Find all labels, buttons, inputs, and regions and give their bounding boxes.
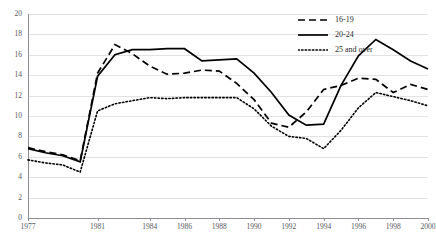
y-tick-label: 18 bbox=[15, 31, 23, 39]
x-tick-label: 1981 bbox=[90, 223, 105, 231]
legend-item-25-and-over[interactable]: 25 and over bbox=[298, 42, 373, 57]
x-tick-label: 1992 bbox=[281, 223, 296, 231]
y-tick-label: 6 bbox=[18, 153, 22, 161]
x-tick bbox=[98, 218, 99, 221]
legend-item-20-24[interactable]: 20-24 bbox=[298, 27, 373, 42]
legend-swatch-solid bbox=[298, 30, 328, 40]
y-tick-label: 16 bbox=[15, 51, 23, 59]
x-axis-labels: 1977198119841986198819901992199419961998… bbox=[28, 218, 428, 242]
legend-label: 25 and over bbox=[335, 46, 373, 54]
x-tick-label: 1986 bbox=[177, 223, 192, 231]
legend-swatch-dotted bbox=[298, 45, 328, 55]
y-axis-labels: 02468101214161820 bbox=[0, 14, 24, 218]
legend-swatch-dashed bbox=[298, 15, 328, 25]
x-tick-label: 1988 bbox=[212, 223, 227, 231]
y-tick-label: 0 bbox=[18, 214, 22, 222]
x-tick-label: 1994 bbox=[316, 223, 331, 231]
x-tick-label: 1998 bbox=[386, 223, 401, 231]
x-tick bbox=[358, 218, 359, 221]
x-tick bbox=[219, 218, 220, 221]
y-tick-label: 10 bbox=[15, 112, 23, 120]
x-tick bbox=[185, 218, 186, 221]
y-tick-label: 20 bbox=[15, 10, 23, 18]
x-tick-label: 1977 bbox=[21, 223, 36, 231]
x-tick-label: 1984 bbox=[142, 223, 157, 231]
series-line-25-and-over bbox=[28, 93, 428, 173]
x-tick-label: 1990 bbox=[247, 223, 262, 231]
x-tick bbox=[324, 218, 325, 221]
x-tick bbox=[393, 218, 394, 221]
legend-label: 16-19 bbox=[335, 16, 354, 24]
x-tick-label: 2000 bbox=[421, 223, 436, 231]
chart-legend: 16-1920-2425 and over bbox=[298, 12, 373, 57]
y-tick-label: 14 bbox=[15, 71, 23, 79]
x-tick bbox=[28, 218, 29, 221]
legend-label: 20-24 bbox=[335, 31, 354, 39]
x-tick-label: 1996 bbox=[351, 223, 366, 231]
y-tick-label: 2 bbox=[18, 194, 22, 202]
y-tick-label: 4 bbox=[18, 173, 22, 181]
y-tick-label: 12 bbox=[15, 92, 23, 100]
x-tick bbox=[289, 218, 290, 221]
y-tick-label: 8 bbox=[18, 133, 22, 141]
x-tick bbox=[254, 218, 255, 221]
x-tick bbox=[428, 218, 429, 221]
x-tick bbox=[150, 218, 151, 221]
legend-item-16-19[interactable]: 16-19 bbox=[298, 12, 373, 27]
